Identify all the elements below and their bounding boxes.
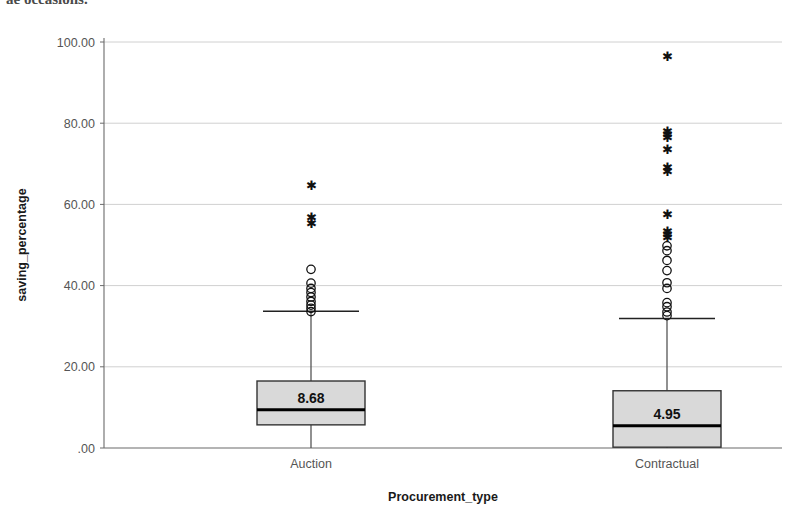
y-tick-label: 20.00 xyxy=(64,360,95,374)
boxplot-contractual[interactable]: 4.95✱✱✱✱✱✱✱✱✱✱✱ xyxy=(613,49,721,448)
outlier-circle-marker xyxy=(307,265,315,273)
y-tick-label: 100.00 xyxy=(57,36,95,50)
outlier-star-marker: ✱ xyxy=(306,216,317,231)
outlier-star-marker: ✱ xyxy=(306,178,317,193)
y-tick-label: 60.00 xyxy=(64,198,95,212)
outlier-star-marker: ✱ xyxy=(662,164,673,179)
median-value-label: 8.68 xyxy=(297,390,324,406)
median-value-label: 4.95 xyxy=(653,406,680,422)
outlier-circle-marker xyxy=(663,256,671,264)
y-tick-label: .00 xyxy=(78,442,95,456)
y-tick-label: 40.00 xyxy=(64,279,95,293)
outlier-star-marker: ✱ xyxy=(662,49,673,64)
y-tick-labels: .0020.0040.0060.0080.00100.00 xyxy=(57,36,104,456)
outlier-circle-marker xyxy=(663,266,671,274)
chart-page: ae occasions. .0020.0040.0060.0080.00100… xyxy=(0,0,792,523)
outlier-star-marker: ✱ xyxy=(662,142,673,157)
category-tick-labels: AuctionContractual xyxy=(290,457,699,471)
outlier-star-marker: ✱ xyxy=(662,230,673,245)
y-axis-title: saving_percentage xyxy=(15,188,29,301)
category-label-auction: Auction xyxy=(290,457,332,471)
boxplot-figure: .0020.0040.0060.0080.00100.00 8.68✱✱✱4.9… xyxy=(0,0,792,523)
category-label-contractual: Contractual xyxy=(635,457,699,471)
x-axis-title: Procurement_type xyxy=(388,490,498,504)
boxplot-auction[interactable]: 8.68✱✱✱ xyxy=(257,178,365,448)
y-tick-label: 80.00 xyxy=(64,117,95,131)
boxplot-series: 8.68✱✱✱4.95✱✱✱✱✱✱✱✱✱✱✱ xyxy=(257,49,721,448)
outlier-circle-marker xyxy=(663,246,671,254)
outlier-star-marker: ✱ xyxy=(662,207,673,222)
